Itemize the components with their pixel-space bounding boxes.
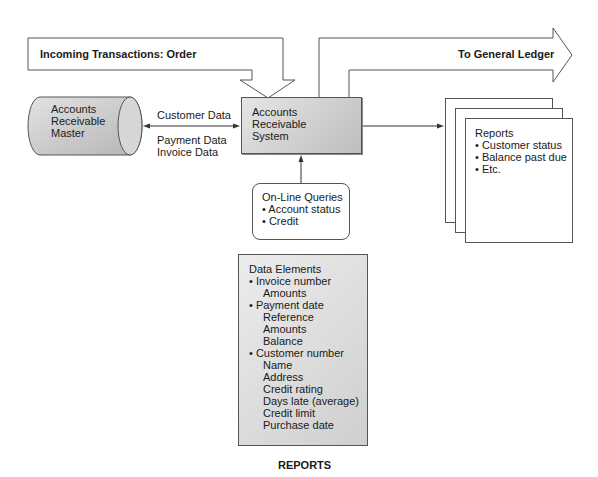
data-elements-box: Data Elements • Invoice number Amounts •…: [238, 254, 368, 446]
incoming-transactions-label: Incoming Transactions: Order: [40, 48, 196, 60]
ledger-arrow-shape: [319, 28, 572, 97]
system-line: System: [252, 130, 361, 142]
data-element-bullet: • Invoice number: [249, 275, 367, 287]
data-element-sub: Name: [249, 359, 367, 371]
report-item: • Balance past due: [475, 151, 572, 163]
data-element-sub: Amounts: [249, 287, 367, 299]
accounts-receivable-system: Accounts Receivable System: [241, 97, 362, 154]
queries-title: On-Line Queries: [262, 191, 349, 203]
accounts-receivable-master: Accounts Receivable Master: [51, 103, 105, 139]
data-element-sub: Credit rating: [249, 383, 367, 395]
online-queries-box: On-Line Queries • Account status • Credi…: [252, 183, 350, 240]
query-item: • Credit: [262, 215, 349, 227]
master-line: Master: [51, 127, 105, 139]
data-element-bullet: • Payment date: [249, 299, 367, 311]
data-element-sub: Address: [249, 371, 367, 383]
figure-caption: REPORTS: [278, 459, 331, 471]
general-ledger-label: To General Ledger: [458, 48, 554, 60]
master-line: Receivable: [51, 115, 105, 127]
customer-data-label: Customer Data: [157, 109, 231, 121]
master-line: Accounts: [51, 103, 105, 115]
incoming-arrow-shape: [28, 38, 295, 98]
reports-title: Reports: [475, 127, 572, 139]
report-item: • Customer status: [475, 139, 572, 151]
data-element-sub: Purchase date: [249, 419, 367, 431]
report-page-front: Reports • Customer status • Balance past…: [465, 118, 573, 243]
data-element-sub: Balance: [249, 335, 367, 347]
query-item: • Account status: [262, 203, 349, 215]
report-item: • Etc.: [475, 163, 572, 175]
data-element-sub: Reference: [249, 311, 367, 323]
data-element-sub: Credit limit: [249, 407, 367, 419]
data-element-bullet: • Customer number: [249, 347, 367, 359]
system-line: Receivable: [252, 118, 361, 130]
data-element-sub: Days late (average): [249, 395, 367, 407]
payment-data-label: Payment Data: [157, 134, 227, 146]
data-element-sub: Amounts: [249, 323, 367, 335]
system-line: Accounts: [252, 106, 361, 118]
payment-invoice-labels: Payment Data Invoice Data: [157, 134, 227, 158]
invoice-data-label: Invoice Data: [157, 146, 227, 158]
data-elements-title: Data Elements: [249, 263, 367, 275]
